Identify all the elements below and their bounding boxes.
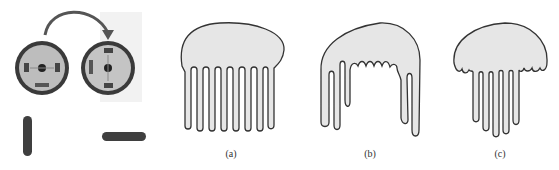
disc-after [81,41,135,95]
shape-b [300,0,430,170]
horizontal-bar [102,132,146,141]
photo-panel [0,0,160,170]
panel-label-b: (b) [355,148,385,159]
vertical-bar [23,116,32,156]
panel-label-c: (c) [485,148,515,159]
panel-label-a: (a) [216,148,246,159]
panel-c: (c) [430,0,559,170]
photo-panel-graphic [0,0,160,170]
panel-b: (b) [300,0,430,170]
panel-a: (a) [160,0,300,170]
disc-before [15,41,69,95]
shape-c [430,0,559,170]
shape-a [160,0,300,170]
